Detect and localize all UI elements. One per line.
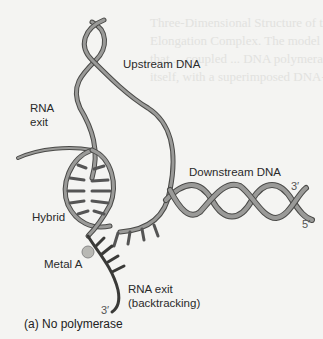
label-rna-exit-2: exit (30, 116, 48, 129)
label-3prime-rna: 3′ (101, 304, 109, 316)
label-metal-a: Metal A (44, 258, 82, 271)
label-downstream-dna: Downstream DNA (189, 166, 281, 179)
label-upstream-dna: Upstream DNA (123, 58, 200, 71)
label-hybrid: Hybrid (32, 211, 65, 224)
label-3prime-downstream: 3′ (291, 180, 299, 192)
label-rna-exit-backtracking-2: (backtracking) (128, 297, 200, 310)
label-rna-exit-backtracking-1: RNA exit (128, 283, 173, 296)
label-rna-exit-1: RNA (30, 102, 54, 115)
metal-a-icon (82, 246, 94, 258)
hybrid-loop (65, 150, 113, 236)
label-5prime-downstream: 5′ (302, 218, 310, 230)
figure-caption: (a) No polymerase (24, 317, 123, 331)
